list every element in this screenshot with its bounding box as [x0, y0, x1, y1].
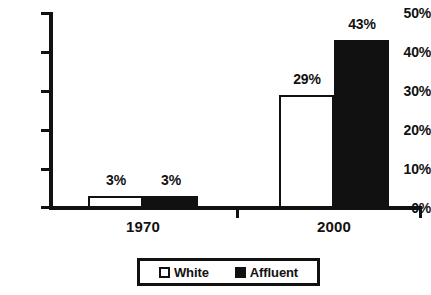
y-axis-line — [49, 12, 53, 210]
x-axis-tick-end — [419, 208, 422, 218]
bar-value-2000-white: 29% — [279, 71, 335, 87]
legend-swatch-white-icon — [159, 267, 170, 278]
legend: White Affluent — [137, 258, 320, 286]
x-axis-label-1970: 1970 — [83, 218, 203, 235]
legend-label-white: White — [174, 265, 209, 280]
y-axis-label-50: 50% — [391, 5, 431, 21]
x-axis-tick-mid — [236, 208, 239, 218]
legend-swatch-affluent-icon — [235, 267, 246, 278]
legend-item-white: White — [159, 265, 209, 280]
bar-2000-affluent — [334, 40, 389, 208]
y-axis-label-20: 20% — [391, 122, 431, 138]
bar-value-2000-affluent: 43% — [334, 16, 390, 32]
bar-1970-white — [88, 196, 143, 208]
y-axis-label-40: 40% — [391, 44, 431, 60]
bar-value-1970-white: 3% — [88, 172, 144, 188]
x-axis-label-2000: 2000 — [274, 218, 394, 235]
legend-item-affluent: Affluent — [235, 265, 298, 280]
y-axis-label-10: 10% — [391, 161, 431, 177]
y-axis-label-30: 30% — [391, 83, 431, 99]
bar-2000-white — [279, 95, 334, 208]
bar-value-1970-affluent: 3% — [143, 172, 199, 188]
bar-chart: 50% 40% 30% 20% 10% 0% 3% 3% 29% 43% 197… — [0, 0, 431, 295]
legend-label-affluent: Affluent — [250, 265, 298, 280]
bar-1970-affluent — [143, 196, 198, 208]
